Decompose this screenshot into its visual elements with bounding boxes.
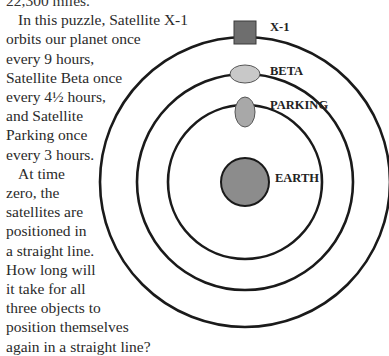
parking-label: PARKING [270, 98, 328, 112]
text-line: again in a straight line? [6, 337, 266, 356]
satellite-parking-icon [235, 97, 255, 127]
beta-label: BETA [270, 64, 303, 78]
earth-icon [221, 158, 269, 206]
earth-label: EARTH [275, 171, 319, 185]
satellite-beta-icon [230, 65, 260, 83]
satellite-x1-icon [234, 21, 256, 44]
x1-label: X-1 [270, 20, 289, 34]
